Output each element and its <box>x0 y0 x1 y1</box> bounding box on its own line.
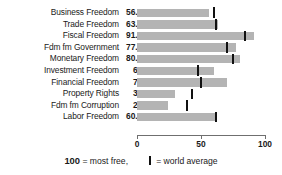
category-label: Property Rights <box>63 88 119 100</box>
bar-track <box>137 7 282 19</box>
category-label: Business Freedom <box>51 7 119 19</box>
axis-tick-label: 0 <box>122 139 152 149</box>
world-average-marker <box>244 31 246 42</box>
chart-row: Labor Freedom60.6 <box>0 111 282 123</box>
axis-tick-label: 50 <box>186 139 216 149</box>
chart-rows: Business Freedom56.1Trade Freedom63.2Fis… <box>0 7 282 123</box>
chart-row: Fdm fm Corruption24 <box>0 100 282 112</box>
bar-track <box>137 53 282 65</box>
world-average-marker <box>213 7 215 18</box>
value-bar <box>137 90 175 98</box>
value-bar <box>137 9 209 17</box>
legend-score-value: 100 <box>64 155 80 166</box>
world-average-marker-icon <box>149 156 151 165</box>
category-label: Trade Freedom <box>63 19 119 31</box>
value-bar <box>137 55 240 63</box>
world-average-marker <box>232 54 234 65</box>
chart-row: Trade Freedom63.2 <box>0 19 282 31</box>
legend-marker-text: = world average <box>156 156 217 166</box>
freedom-index-bar-chart: FREEDOM FROM GOVERNMENT INDEX Business F… <box>0 0 282 175</box>
chart-row: Fiscal Freedom91.5 <box>0 30 282 42</box>
chart-row: Investment Freedom60 <box>0 65 282 77</box>
value-bar <box>137 32 254 40</box>
chart-row: Property Rights30 <box>0 88 282 100</box>
category-label: Financial Freedom <box>51 77 119 89</box>
chart-row: Fdm fm Government77.7 <box>0 42 282 54</box>
bar-track <box>137 77 282 89</box>
bar-track <box>137 19 282 31</box>
category-label: Labor Freedom <box>63 111 119 123</box>
axis-tick-label: 100 <box>250 139 280 149</box>
category-label: Fiscal Freedom <box>63 30 119 42</box>
bar-track <box>137 30 282 42</box>
value-bar <box>137 113 215 121</box>
chart-legend: 100 = most free, = world average <box>0 155 282 167</box>
value-bar <box>137 67 214 75</box>
world-average-marker <box>197 65 199 76</box>
chart-row: Financial Freedom70 <box>0 77 282 89</box>
bar-track <box>137 100 282 112</box>
world-average-marker <box>226 42 228 53</box>
chart-row: Monetary Freedom80.7 <box>0 53 282 65</box>
world-average-marker <box>200 77 202 88</box>
value-bar <box>137 101 168 109</box>
category-label: Fdm fm Government <box>44 42 119 54</box>
chart-row: Business Freedom56.1 <box>0 7 282 19</box>
world-average-marker <box>215 112 217 123</box>
value-bar <box>137 43 236 51</box>
value-bar <box>137 78 227 86</box>
world-average-marker <box>215 19 217 30</box>
bar-track <box>137 42 282 54</box>
world-average-marker <box>191 89 193 100</box>
world-average-marker <box>186 100 188 111</box>
value-bar <box>137 20 218 28</box>
category-label: Fdm fm Corruption <box>51 100 119 112</box>
bar-track <box>137 65 282 77</box>
bar-track <box>137 111 282 123</box>
category-label: Monetary Freedom <box>50 53 119 65</box>
bar-track <box>137 88 282 100</box>
legend-score-text: = most free, <box>82 156 128 166</box>
category-label: Investment Freedom <box>44 65 119 77</box>
